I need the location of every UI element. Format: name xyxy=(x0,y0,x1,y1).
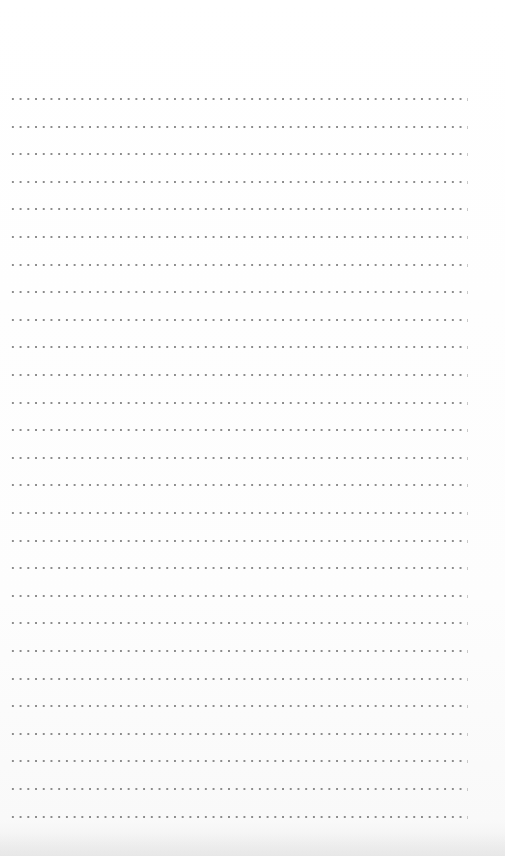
dotted-rule-line xyxy=(9,291,465,293)
dotted-rule-line xyxy=(9,153,465,155)
ruled-page xyxy=(0,0,505,856)
line-end-tick xyxy=(467,816,468,819)
line-end-tick xyxy=(467,264,468,267)
line-end-tick xyxy=(467,733,468,736)
line-end-tick xyxy=(467,208,468,211)
line-end-tick xyxy=(467,429,468,432)
dotted-rule-line xyxy=(9,236,465,238)
line-end-tick xyxy=(467,788,468,791)
dotted-rule-line xyxy=(9,346,465,348)
dotted-rule-line xyxy=(9,457,465,459)
dotted-rule-line xyxy=(9,678,465,680)
line-end-tick xyxy=(467,346,468,349)
line-end-tick xyxy=(467,540,468,543)
line-end-tick xyxy=(467,650,468,653)
scan-shadow-edge xyxy=(0,834,505,856)
dotted-rule-line xyxy=(9,181,465,183)
dotted-rule-line xyxy=(9,733,465,735)
line-end-tick xyxy=(467,760,468,763)
line-end-tick xyxy=(467,622,468,625)
line-end-tick xyxy=(467,402,468,405)
line-end-tick xyxy=(467,512,468,515)
dotted-rule-line xyxy=(9,126,465,128)
dotted-rule-line xyxy=(9,98,465,100)
line-end-tick xyxy=(467,181,468,184)
dotted-rule-line xyxy=(9,788,465,790)
line-end-tick xyxy=(467,374,468,377)
line-end-tick xyxy=(467,236,468,239)
line-end-tick xyxy=(467,484,468,487)
dotted-rule-line xyxy=(9,650,465,652)
dotted-rule-line xyxy=(9,540,465,542)
dotted-rule-line xyxy=(9,512,465,514)
line-end-tick xyxy=(467,126,468,129)
line-end-tick xyxy=(467,678,468,681)
line-end-tick xyxy=(467,705,468,708)
dotted-rule-line xyxy=(9,484,465,486)
dotted-rule-line xyxy=(9,595,465,597)
dotted-rule-line xyxy=(9,760,465,762)
dotted-rule-line xyxy=(9,567,465,569)
dotted-rule-line xyxy=(9,319,465,321)
dotted-rule-line xyxy=(9,816,465,818)
dotted-rule-line xyxy=(9,705,465,707)
line-end-tick xyxy=(467,291,468,294)
line-end-tick xyxy=(467,567,468,570)
dotted-rule-line xyxy=(9,622,465,624)
line-end-tick xyxy=(467,595,468,598)
line-end-tick xyxy=(467,98,468,101)
line-end-tick xyxy=(467,457,468,460)
dotted-rule-line xyxy=(9,402,465,404)
dotted-rule-line xyxy=(9,264,465,266)
line-end-tick xyxy=(467,319,468,322)
line-end-tick xyxy=(467,153,468,156)
dotted-rule-line xyxy=(9,429,465,431)
dotted-rule-line xyxy=(9,208,465,210)
dotted-rule-line xyxy=(9,374,465,376)
